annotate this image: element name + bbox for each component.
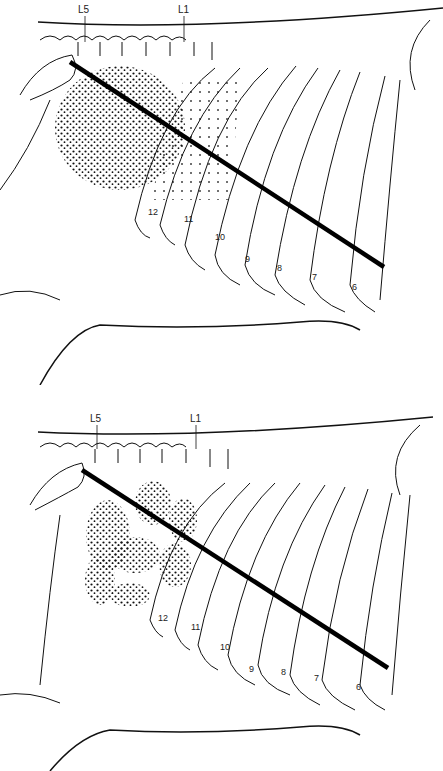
rib-7: 7	[314, 673, 319, 683]
rib-12: 12	[148, 207, 158, 217]
rib-12: 12	[158, 613, 168, 623]
rib-6: 6	[356, 682, 361, 692]
label-l5: L5	[90, 413, 102, 424]
rib-11: 11	[191, 622, 200, 632]
rib-6: 6	[352, 282, 357, 292]
bottom-panel: L5 L1 12 11 10 9 8 7 6	[0, 385, 443, 771]
label-l1: L1	[190, 413, 202, 424]
rib-9: 9	[249, 664, 254, 674]
label-l1: L1	[178, 4, 190, 15]
rib-8: 8	[277, 263, 282, 273]
top-anatomy-drawing: L5 L1 12 11 10 9 8 7 6	[0, 0, 443, 385]
rib-11: 11	[184, 214, 193, 224]
bottom-anatomy-drawing: L5 L1 12 11 10 9 8 7 6	[0, 385, 443, 771]
label-l5: L5	[78, 4, 90, 15]
rib-10: 10	[215, 232, 225, 242]
rib-10: 10	[220, 642, 230, 652]
top-panel: L5 L1 12 11 10 9 8 7 6	[0, 0, 443, 385]
rib-8: 8	[281, 667, 286, 677]
rib-7: 7	[312, 272, 317, 282]
rib-9: 9	[245, 254, 250, 264]
